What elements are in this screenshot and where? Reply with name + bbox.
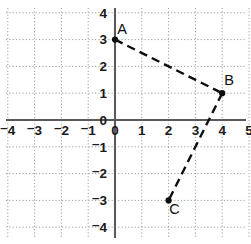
- x-tick-label: 2: [165, 123, 173, 138]
- x-tick-label: 4: [218, 123, 226, 138]
- x-tick-label: –3: [27, 120, 43, 139]
- x-tick-label: 5: [245, 123, 251, 138]
- y-tick-label: –2: [92, 163, 107, 182]
- y-tick-label: 2: [99, 59, 107, 74]
- point-label-b: B: [224, 72, 234, 88]
- grid-layer: [6, 8, 249, 238]
- point-label-c: C: [169, 201, 179, 217]
- y-tick-label: 1: [99, 86, 107, 101]
- plot-canvas: –4–3–2–101234543210–1–2–3–4 ABC: [0, 0, 251, 244]
- point-label-a: A: [117, 21, 127, 37]
- y-tick-label: –1: [92, 136, 108, 155]
- data-point-a: [112, 37, 118, 43]
- x-tick-label: –2: [54, 120, 69, 139]
- y-tick-label: –3: [92, 190, 108, 209]
- x-tick-label: 1: [138, 123, 146, 138]
- y-tick-label: 3: [99, 32, 107, 47]
- y-tick-label: 4: [99, 6, 107, 21]
- y-tick-label: 0: [99, 113, 107, 128]
- x-tick-label: –4: [0, 120, 16, 139]
- y-tick-label: –4: [92, 217, 108, 236]
- x-tick-label: 0: [111, 123, 119, 138]
- data-point-b: [219, 90, 225, 96]
- x-tick-label: 3: [192, 123, 200, 138]
- coordinate-plane-figure: –4–3–2–101234543210–1–2–3–4 ABC: [0, 0, 251, 244]
